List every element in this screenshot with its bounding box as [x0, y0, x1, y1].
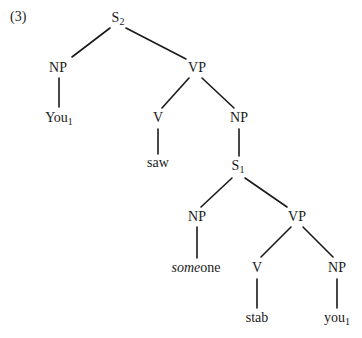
node-np-embedded-object: NP: [328, 260, 346, 276]
leaf-stab: stab: [246, 310, 269, 326]
edge-vp2-v2: [261, 227, 291, 257]
node-v-saw: V: [153, 110, 163, 126]
node-vp-main: VP: [188, 60, 206, 76]
node-subscript: 1: [68, 116, 73, 127]
node-label: NP: [188, 209, 206, 224]
leaf-you1: You1: [45, 110, 73, 126]
leaf-saw: saw: [147, 155, 169, 171]
leaf-someone: someone: [172, 260, 221, 276]
node-label: S: [112, 10, 120, 25]
node-subscript: 1: [239, 164, 244, 175]
node-label: You: [45, 110, 68, 125]
edge-s2-np1: [72, 28, 110, 57]
edge-vp1-v1: [162, 78, 189, 108]
node-s2: S2: [112, 10, 125, 26]
example-number: (3): [10, 9, 26, 25]
node-np-subject: NP: [49, 60, 67, 76]
node-label: VP: [288, 209, 306, 224]
edge-vp2-np4: [303, 227, 333, 257]
node-v-stab: V: [252, 260, 262, 276]
node-label: V: [252, 260, 262, 275]
edge-s2-vp1: [126, 28, 186, 59]
edge-s1-np3: [201, 178, 232, 207]
node-label: saw: [147, 155, 169, 170]
edge-vp1-np2: [202, 78, 234, 108]
node-label: S: [232, 158, 240, 173]
node-label: NP: [230, 110, 248, 125]
node-subscript: 1: [345, 316, 350, 327]
node-vp-embedded: VP: [288, 209, 306, 225]
node-np-embedded-subject: NP: [188, 209, 206, 225]
node-label: NP: [49, 60, 67, 75]
leaf-you1-object: you1: [324, 310, 350, 326]
node-s1: S1: [232, 158, 245, 174]
tree-edges: [0, 0, 362, 338]
node-subscript: 2: [119, 16, 124, 27]
node-label: V: [153, 110, 163, 125]
node-np-object: NP: [230, 110, 248, 126]
node-label: you: [324, 310, 345, 325]
node-label: one: [200, 260, 220, 275]
node-label: VP: [188, 60, 206, 75]
node-label-italic: some: [172, 260, 201, 275]
node-label: NP: [328, 260, 346, 275]
node-label: stab: [246, 310, 269, 325]
edge-s1-vp2: [245, 178, 287, 207]
